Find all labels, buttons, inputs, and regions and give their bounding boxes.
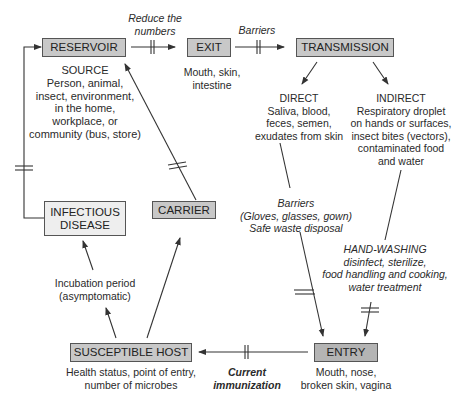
entry-description: Mouth, nose, broken skin, vagina (296, 366, 396, 391)
infectious-disease-node: INFECTIOUS DISEASE (44, 201, 126, 236)
transmission-node: TRANSMISSION (296, 38, 394, 57)
indirect-description: INDIRECT Respiratory droplet on hands or… (345, 92, 457, 167)
barriers-line: Safe waste disposal (232, 222, 360, 235)
exit-line: Mouth, skin, (172, 66, 252, 79)
direct-description: DIRECT Saliva, blood, feces, semen, exud… (244, 92, 354, 142)
entry-line: Mouth, nose, (296, 366, 396, 379)
infectious-disease-line: DISEASE (50, 219, 120, 232)
source-line: community (bus, store) (18, 128, 152, 141)
reduce-line: numbers (120, 25, 190, 38)
indirect-line: insect bites (vectors), (345, 130, 457, 143)
direct-line: feces, semen, (244, 117, 354, 130)
exit-node: EXIT (187, 38, 231, 57)
source-heading: SOURCE (18, 64, 152, 77)
immunization-line: Current (205, 366, 289, 379)
susceptible-host-node: SUSCEPTIBLE HOST (70, 343, 192, 362)
entry-node: ENTRY (314, 343, 378, 362)
source-description: SOURCE Person, animal, insect, environme… (18, 64, 152, 141)
source-line: workplace, or (18, 115, 152, 128)
carrier-node: CARRIER (152, 201, 216, 219)
barriers-direct-label: Barriers (Gloves, glasses, gown) Safe wa… (232, 197, 360, 235)
indirect-line: and water (345, 155, 457, 168)
indirect-heading: INDIRECT (345, 92, 457, 105)
source-line: in the home, (18, 102, 152, 115)
connector-lines (0, 0, 459, 400)
direct-line: exudates from skin (244, 130, 354, 143)
immunization-line: immunization (205, 379, 289, 392)
exit-description: Mouth, skin, intestine (172, 66, 252, 91)
indirect-line: contaminated food (345, 142, 457, 155)
entry-line: broken skin, vagina (296, 379, 396, 392)
exit-line: intestine (172, 79, 252, 92)
source-line: Person, animal, (18, 77, 152, 90)
incubation-line: Incubation period (40, 277, 150, 290)
host-line: number of microbes (56, 379, 206, 392)
indirect-line: on hands or surfaces, (345, 117, 457, 130)
immunization-label: Current immunization (205, 366, 289, 391)
direct-heading: DIRECT (244, 92, 354, 105)
hand-washing-line: food handling and cooking, (315, 268, 455, 281)
barriers-top-label: Barriers (232, 24, 282, 37)
incubation-description: Incubation period (asymptomatic) (40, 277, 150, 302)
reduce-numbers-label: Reduce the numbers (120, 12, 190, 37)
hand-washing-label: HAND-WASHING disinfect, sterilize, food … (315, 243, 455, 293)
source-line: insect, environment, (18, 90, 152, 103)
barriers-line: (Gloves, glasses, gown) (232, 210, 360, 223)
hand-washing-line: disinfect, sterilize, (315, 256, 455, 269)
indirect-line: Respiratory droplet (345, 105, 457, 118)
incubation-line: (asymptomatic) (40, 290, 150, 303)
host-line: Health status, point of entry, (56, 366, 206, 379)
host-description: Health status, point of entry, number of… (56, 366, 206, 391)
direct-line: Saliva, blood, (244, 105, 354, 118)
barriers-line: Barriers (232, 197, 360, 210)
reduce-line: Reduce the (120, 12, 190, 25)
hand-washing-line: water treatment (315, 281, 455, 294)
reservoir-node: RESERVOIR (42, 38, 126, 57)
hand-washing-heading: HAND-WASHING (315, 243, 455, 256)
infectious-disease-line: INFECTIOUS (50, 206, 120, 219)
